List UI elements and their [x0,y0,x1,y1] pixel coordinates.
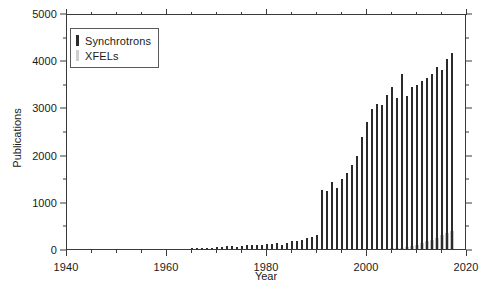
x-tick-minor [216,250,217,253]
bar-synchrotrons [346,173,348,249]
bar-synchrotrons [401,74,403,249]
y-tick-minor-right [466,179,469,180]
bar-synchrotrons [306,238,308,249]
bar-synchrotrons [386,95,388,249]
bar-synchrotrons [416,85,418,249]
x-axis-label: Year [66,270,466,282]
x-tick-major [466,250,467,256]
x-tick-major-top [466,9,467,15]
x-tick-minor-top [441,12,442,15]
bar-synchrotrons [286,243,288,249]
bar-synchrotrons [356,156,358,249]
bar-synchrotrons [246,245,248,249]
bar-synchrotrons [441,70,443,249]
legend-label: Synchrotrons [85,35,151,47]
x-tick-major [366,250,367,256]
y-tick-major-right [466,155,472,156]
x-tick-minor-top [91,12,92,15]
y-tick-minor-right [466,226,469,227]
legend-item-synchrotrons: Synchrotrons [76,33,151,48]
bar-synchrotrons [201,248,203,249]
x-tick-minor-top [316,12,317,15]
bar-synchrotrons [241,246,243,249]
bar-synchrotrons [196,248,198,249]
bar-synchrotrons [281,245,283,249]
y-tick-major-right [466,202,472,203]
y-tick-label: 3000 [32,102,57,114]
legend-label: XFELs [85,50,119,62]
x-tick-minor [316,250,317,253]
bar-synchrotrons [371,109,373,249]
x-tick-minor [416,250,417,253]
x-tick-minor [241,250,242,253]
x-tick-major-top [166,9,167,15]
bar-synchrotrons [331,182,333,249]
bar-synchrotrons [376,104,378,249]
x-tick-minor-top [391,12,392,15]
bar-synchrotrons [366,122,368,249]
bar-synchrotrons [321,190,323,249]
x-tick-minor [191,250,192,253]
x-tick-minor-top [341,12,342,15]
x-tick-minor [91,250,92,253]
x-tick-major-top [366,9,367,15]
x-tick-minor-top [116,12,117,15]
bar-synchrotrons [221,247,223,249]
x-tick-major-top [66,9,67,15]
bar-synchrotrons [301,240,303,249]
y-axis-label: Publications [11,83,23,193]
bar-synchrotrons [436,67,438,249]
x-tick-minor [341,250,342,253]
bar-synchrotrons [296,241,298,249]
legend-swatch-icon [76,35,79,46]
x-axis-top-ticks [66,5,466,15]
bar-synchrotrons [206,248,208,249]
bar-synchrotrons [316,235,318,249]
x-tick-minor-top [291,12,292,15]
bar-synchrotrons [426,78,428,249]
x-tick-minor [391,250,392,253]
x-tick-minor-top [141,12,142,15]
legend: SynchrotronsXFELs [70,28,159,68]
x-tick-minor [441,250,442,253]
y-tick-minor-right [466,37,469,38]
x-tick-minor [141,250,142,253]
bar-synchrotrons [451,53,453,249]
y-tick-label: 1000 [32,197,57,209]
bar-synchrotrons [391,87,393,249]
x-tick-minor-top [216,12,217,15]
bar-synchrotrons [406,96,408,249]
bar-synchrotrons [381,105,383,249]
bar-synchrotrons [336,188,338,249]
y-tick-label: 0 [51,244,57,256]
bar-synchrotrons [326,191,328,249]
bar-synchrotrons [266,244,268,249]
x-tick-minor [291,250,292,253]
bar-synchrotrons [411,87,413,249]
legend-swatch-icon [76,50,79,61]
bar-synchrotrons [446,59,448,249]
x-tick-minor-top [241,12,242,15]
bar-synchrotrons [256,245,258,249]
bar-synchrotrons [236,247,238,249]
bar-synchrotrons [191,248,193,249]
y-tick-minor-right [466,132,469,133]
y-tick-major-right [466,61,472,62]
bar-synchrotrons [211,248,213,249]
bar-synchrotrons [431,74,433,249]
bar-synchrotrons [216,247,218,249]
bar-synchrotrons [276,243,278,249]
y-tick-label: 2000 [32,150,57,162]
x-tick-major-top [266,9,267,15]
y-tick-label: 4000 [32,55,57,67]
bar-synchrotrons [351,165,353,249]
bar-synchrotrons [361,137,363,249]
bar-synchrotrons [226,246,228,249]
y-tick-label: 5000 [32,8,57,20]
y-axis-right-ticks [466,14,476,250]
x-tick-major [266,250,267,256]
bar-synchrotrons [396,98,398,249]
bar-synchrotrons [291,241,293,249]
bar-synchrotrons [271,244,273,249]
bar-synchrotrons [231,246,233,249]
